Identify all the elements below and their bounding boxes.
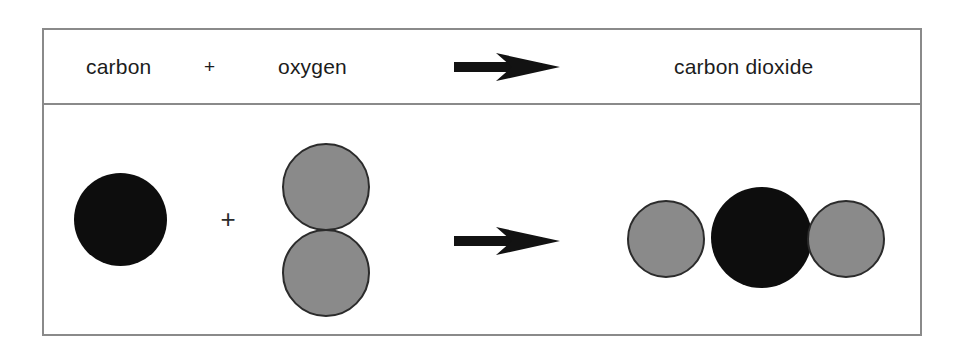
reaction-arrow-icon-word-row [454, 51, 560, 83]
carbon-atom-reactant [74, 173, 167, 266]
word-label-carbon-dioxide: carbon dioxide [674, 55, 813, 79]
oxygen-atom-product-right [807, 200, 885, 278]
molecular-model-row: + [44, 105, 920, 334]
diagram-frame: carbon + oxygen carbon dioxide + [42, 28, 922, 336]
model-plus-sign: + [214, 205, 242, 233]
word-label-oxygen: oxygen [278, 55, 347, 79]
oxygen-atom-product-left [627, 200, 705, 278]
word-plus-sign: + [204, 56, 215, 78]
word-equation-row: carbon + oxygen carbon dioxide [44, 30, 920, 105]
reaction-arrow-icon-model-row [454, 225, 560, 257]
word-label-carbon: carbon [86, 55, 151, 79]
diagram-canvas: carbon + oxygen carbon dioxide + [0, 0, 959, 353]
oxygen-atom-reactant-bottom [282, 229, 370, 317]
oxygen-atom-reactant-top [282, 143, 370, 231]
carbon-atom-product [711, 187, 812, 288]
